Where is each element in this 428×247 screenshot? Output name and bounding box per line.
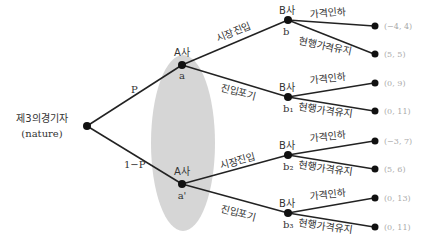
payoff-label: (0, 9) (384, 79, 406, 88)
payoff-label: (−3, 7) (384, 137, 412, 146)
move-enter-label-upper: 시장진입 (214, 19, 252, 44)
edge-b1-cut (288, 83, 374, 97)
edge-b2-cut (288, 141, 374, 155)
node-b2-player: B사 (279, 140, 295, 151)
move-stayout-label-lower: 진입포기 (220, 202, 258, 222)
root-sublabel: (nature) (21, 128, 62, 139)
node-a-prime (178, 180, 186, 188)
move-cut-label: 가격인하 (309, 70, 346, 86)
node-a (178, 61, 186, 69)
node-b3-id: b₃ (283, 219, 293, 230)
payoff-label: (0, 11) (384, 107, 411, 116)
node-b-id: b (283, 26, 289, 37)
move-stayout-label-upper: 진입포기 (220, 81, 258, 101)
edge-b3-cut (288, 198, 374, 213)
node-b3 (284, 209, 292, 217)
payoff-label: (5, 5) (384, 50, 406, 59)
node-b-player: B사 (279, 5, 295, 16)
payoff-label: (0, 13) (384, 194, 411, 203)
terminal-node (372, 195, 379, 202)
prob-1-minus-p-label: 1−P (124, 159, 146, 170)
node-a-player: A사 (174, 47, 190, 58)
node-b3-player: B사 (279, 198, 295, 209)
move-enter-label-lower: 시장진입 (218, 150, 256, 171)
node-b2-id: b₂ (283, 161, 293, 172)
node-b1-player: B사 (279, 82, 295, 93)
payoff-label: (0, 11) (384, 223, 411, 232)
terminal-node (372, 51, 379, 58)
node-b1 (284, 93, 292, 101)
root-label: 제3의경기자 (16, 112, 67, 124)
node-b1-id: b₁ (283, 103, 293, 114)
node-a-prime-id: a' (178, 190, 187, 201)
information-set-oval (151, 55, 215, 231)
move-cut-label: 가격인하 (309, 5, 346, 20)
terminal-node (372, 108, 379, 115)
payoff-label: (−4, 4) (384, 22, 412, 31)
payoff-label: (5, 6) (384, 165, 406, 174)
node-b (284, 16, 292, 24)
move-cut-label: 가격인하 (309, 186, 346, 202)
terminal-node (372, 23, 379, 30)
move-keep-label: 현행가격유지 (298, 34, 353, 57)
root-node (83, 122, 91, 130)
terminal-node (372, 166, 379, 173)
node-a-prime-player: A사 (174, 166, 190, 177)
terminal-node (372, 224, 379, 231)
terminal-node (372, 138, 379, 145)
node-a-id: a (179, 70, 185, 81)
move-cut-label: 가격인하 (309, 128, 346, 144)
node-b2 (284, 151, 292, 159)
terminal-node (372, 80, 379, 87)
game-tree-diagram: 제3의경기자 (nature) P 1−P A사 a A사 a' 시장진입 진입… (0, 0, 428, 247)
prob-p-label: P (131, 84, 138, 95)
